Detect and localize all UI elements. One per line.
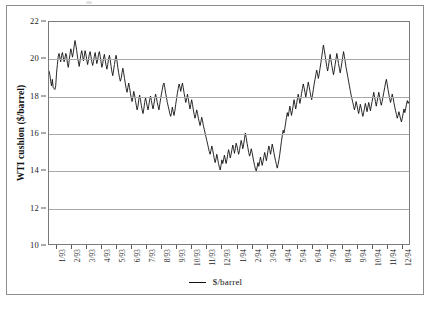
y-ticklabel-14: 14 (30, 165, 39, 175)
x-ticklabel-10-93: 10/93 (194, 249, 202, 266)
y-tickmark-16 (41, 133, 46, 134)
y-tickmark-14 (41, 170, 46, 171)
y-ticklabel-12: 12 (30, 203, 39, 213)
gridline-18 (49, 97, 409, 98)
x-ticklabel-7-93: 7/93 (149, 249, 157, 262)
plot-wrapper (48, 21, 410, 245)
chart-figure: WTI cushion ($/barrel) 10121416182022 1/… (0, 0, 431, 313)
x-ticklabel-1-93: 1/93 (59, 249, 67, 262)
x-ticklabel-2-93: 2/93 (74, 249, 82, 262)
y-tickmark-18 (41, 95, 46, 96)
x-ticklabel-7-94: 7/94 (330, 249, 338, 262)
data-series-line (49, 22, 409, 244)
gridline-14 (49, 171, 409, 172)
x-ticklabel-6-94: 6/94 (315, 249, 323, 262)
y-ticklabel-10: 10 (30, 240, 39, 250)
plot-area (48, 21, 410, 245)
x-ticklabel-12-94: 12/94 (405, 249, 413, 266)
x-ticklabel-3-94: 3/94 (270, 249, 278, 262)
x-ticklabel-2-94: 2/94 (255, 249, 263, 262)
y-ticklabel-20: 20 (30, 53, 39, 63)
y-tickmark-22 (41, 21, 46, 22)
gridline-16 (49, 134, 409, 135)
x-ticklabel-10-94: 10/94 (375, 249, 383, 266)
x-ticklabel-11-93: 11/93 (209, 249, 217, 266)
x-ticklabel-5-94: 5/94 (300, 249, 308, 262)
legend-line-swatch (189, 282, 206, 283)
x-axis-ticklabels: 1/932/933/934/935/936/937/938/939/9310/9… (48, 249, 410, 275)
x-ticklabel-5-93: 5/93 (119, 249, 127, 262)
y-ticklabel-18: 18 (30, 91, 39, 101)
y-tickmark-12 (41, 207, 46, 208)
x-ticklabel-1-94: 1/94 (240, 249, 248, 262)
x-ticklabel-6-93: 6/93 (134, 249, 142, 262)
x-ticklabel-8-93: 8/93 (164, 249, 172, 262)
y-tickmark-20 (41, 58, 46, 59)
gridline-12 (49, 209, 409, 210)
y-ticklabel-22: 22 (30, 16, 39, 26)
x-ticklabel-3-93: 3/93 (89, 249, 97, 262)
gridline-20 (49, 59, 409, 60)
y-tickmark-10 (41, 245, 46, 246)
x-ticklabel-12-93: 12/93 (224, 249, 232, 266)
x-ticklabel-11-94: 11/94 (390, 249, 398, 266)
x-ticklabel-8-94: 8/94 (345, 249, 353, 262)
scan-artifact (86, 1, 92, 4)
legend-entry-label: $/barrel (213, 277, 243, 287)
y-axis-ticks: 10121416182022 (0, 21, 46, 245)
x-ticklabel-4-93: 4/93 (104, 249, 112, 262)
chart-legend: $/barrel (0, 277, 431, 287)
y-ticklabel-16: 16 (30, 128, 39, 138)
x-ticklabel-9-93: 9/93 (179, 249, 187, 262)
x-ticklabel-4-94: 4/94 (285, 249, 293, 262)
x-ticklabel-9-94: 9/94 (360, 249, 368, 262)
